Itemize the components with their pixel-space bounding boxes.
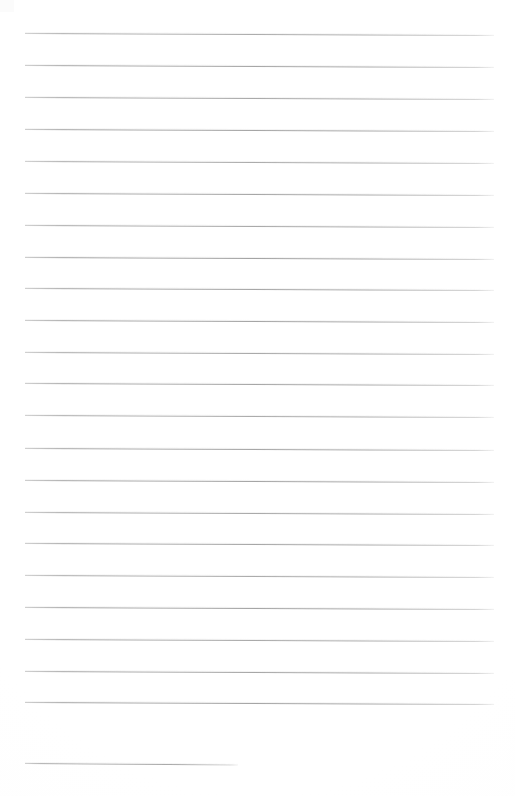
- ruled-line: [25, 512, 494, 515]
- ruled-line: [25, 320, 494, 323]
- ruled-line: [25, 448, 494, 451]
- ruled-line: [25, 257, 494, 260]
- ruled-line: [25, 671, 494, 674]
- ruled-line: [25, 161, 494, 164]
- ruled-line: [25, 543, 494, 546]
- ruled-line: [25, 65, 494, 68]
- ruled-line: [25, 97, 494, 100]
- ruled-line: [25, 129, 494, 132]
- ruled-line: [25, 383, 494, 386]
- scan-corner-artifact: [0, 0, 14, 12]
- ruled-line: [25, 352, 494, 355]
- ruled-line: [25, 415, 494, 418]
- ruled-line: [25, 575, 494, 578]
- ruled-line: [25, 480, 494, 483]
- ruled-line-short: [25, 763, 238, 766]
- ruled-line: [25, 193, 494, 196]
- ruled-line: [25, 225, 494, 228]
- ruled-line: [25, 288, 494, 291]
- ruled-line: [25, 702, 494, 705]
- lined-paper-page: [0, 0, 515, 796]
- ruled-line: [25, 639, 494, 642]
- ruled-line: [25, 33, 494, 36]
- ruled-line: [25, 607, 494, 610]
- paper-background: [0, 0, 515, 796]
